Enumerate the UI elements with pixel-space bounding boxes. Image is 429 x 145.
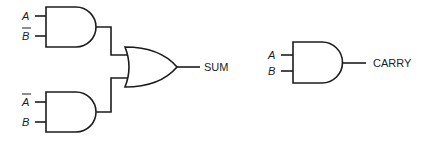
and-gate-2-body <box>46 92 96 132</box>
carry-label: CARRY <box>373 57 412 69</box>
wire-and1-to-or <box>96 27 130 55</box>
carry-and-gate: A B CARRY <box>267 42 412 83</box>
and2-input-b-label: B <box>22 116 29 128</box>
and2-input-a-label: A <box>21 96 29 108</box>
and-gate-1-body <box>46 7 96 47</box>
half-adder-diagram: A B A B SUM A B C <box>0 0 429 145</box>
or-gate-body <box>125 47 177 87</box>
or-gate: SUM <box>125 47 228 87</box>
diagram-canvas: A B A B SUM A B C <box>0 0 429 145</box>
and-gate-2: A B <box>21 92 96 132</box>
carry-and-gate-body <box>293 42 343 83</box>
carry-input-b-label: B <box>268 65 275 77</box>
wire-and2-to-or <box>96 78 130 112</box>
and1-input-b-label: B <box>22 30 29 42</box>
and-gate-1: A B <box>21 7 96 47</box>
and1-input-a-label: A <box>21 10 29 22</box>
sum-label: SUM <box>204 61 228 73</box>
carry-input-a-label: A <box>267 49 275 61</box>
